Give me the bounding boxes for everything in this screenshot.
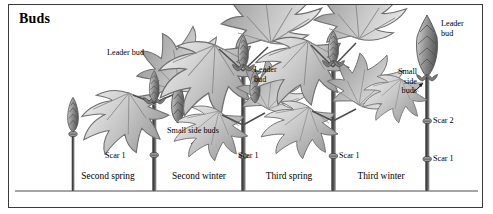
label-leader-bud-right: Leader bud	[441, 19, 481, 38]
label-small-side-buds-center: Small side buds	[167, 126, 219, 136]
label-small-side-buds-right-line1: Small	[398, 67, 417, 76]
season-caption-third-spring: Third spring	[246, 171, 332, 181]
label-leader-bud-right-line2: bud	[441, 29, 453, 38]
label-leader-bud-center: Leader bud	[254, 65, 288, 84]
label-scar1-second-winter: Scar 1	[105, 151, 126, 161]
buds-figure-panel: Buds	[8, 4, 483, 208]
plant-rightmost-twig	[358, 15, 438, 191]
label-scar2-right: Scar 2	[433, 116, 454, 126]
season-caption-third-winter: Third winter	[336, 171, 426, 181]
label-small-side-buds-right-line3: buds	[402, 86, 417, 95]
label-leader-bud-center-line2: bud	[254, 75, 266, 84]
label-leader-bud-left: Leader bud	[107, 48, 144, 58]
label-leader-bud-right-line1: Leader	[441, 19, 464, 28]
label-scar1-right: Scar 1	[433, 154, 454, 164]
label-scar1-third-spring: Scar 1	[238, 151, 259, 161]
season-caption-second-winter: Second winter	[156, 171, 242, 181]
label-scar1-third-winter: Scar 1	[339, 151, 360, 161]
season-caption-second-spring: Second spring	[65, 171, 151, 181]
label-small-side-buds-right: Small side buds	[385, 67, 417, 96]
label-leader-bud-center-line1: Leader	[254, 65, 277, 74]
label-small-side-buds-right-line2: side	[404, 77, 417, 86]
